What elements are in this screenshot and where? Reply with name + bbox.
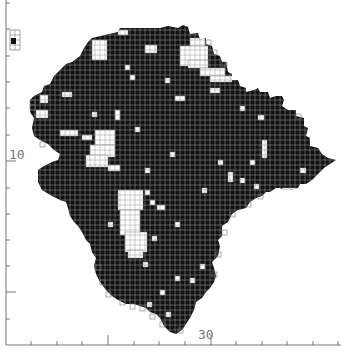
x-axis xyxy=(6,335,341,345)
grid-lines xyxy=(0,0,341,352)
y-axis xyxy=(6,0,16,345)
island-inset xyxy=(10,30,20,50)
y-axis-label-10: 10 xyxy=(9,147,25,162)
distribution-map xyxy=(0,0,341,352)
x-axis-label-30: 30 xyxy=(198,327,214,342)
